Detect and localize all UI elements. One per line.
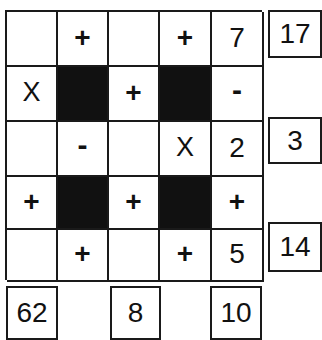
- grid-cell-r5c3[interactable]: [109, 230, 160, 282]
- grid-cell-r4c2-blocked: [58, 177, 109, 230]
- grid-cell-r1c2[interactable]: +: [58, 12, 109, 67]
- minus-icon: -: [78, 130, 88, 160]
- grid-cell-r3c5[interactable]: 2: [212, 122, 264, 177]
- grid-cell-r2c2-blocked: [58, 67, 109, 122]
- grid-cell-r4c5[interactable]: +: [212, 177, 264, 230]
- plus-icon: +: [74, 240, 90, 268]
- grid-cell-r3c2[interactable]: -: [58, 122, 109, 177]
- row-answer-value-3: 3: [287, 127, 303, 155]
- grid-cell-r5c5[interactable]: 5: [212, 230, 264, 282]
- grid-cell-r4c3[interactable]: +: [109, 177, 160, 230]
- grid-cell-r5c4[interactable]: +: [160, 230, 212, 282]
- grid-cell-r1c5[interactable]: 7: [212, 12, 264, 67]
- column-answer-value-3: 8: [128, 299, 144, 327]
- times-icon: X: [22, 79, 40, 106]
- grid-cell-r1c1[interactable]: [7, 12, 58, 67]
- row-answer-value-1: 17: [279, 20, 310, 48]
- column-answer-box-5[interactable]: 10: [210, 286, 262, 340]
- plus-icon: +: [177, 240, 193, 268]
- minus-icon: -: [232, 75, 242, 105]
- cell-number: 2: [229, 134, 245, 162]
- grid-cell-r5c2[interactable]: +: [58, 230, 109, 282]
- cell-number: 5: [229, 240, 245, 268]
- column-answer-box-1[interactable]: 62: [6, 286, 58, 340]
- plus-icon: +: [125, 188, 141, 216]
- plus-icon: +: [74, 24, 90, 52]
- grid-cell-r3c4[interactable]: X: [160, 122, 212, 177]
- plus-icon: +: [125, 79, 141, 107]
- column-answer-value-1: 62: [16, 299, 47, 327]
- grid-cell-r5c1[interactable]: [7, 230, 58, 282]
- grid-cell-r4c4-blocked: [160, 177, 212, 230]
- times-icon: X: [176, 134, 194, 161]
- grid-cell-r4c1[interactable]: +: [7, 177, 58, 230]
- grid-cell-r3c3[interactable]: [109, 122, 160, 177]
- grid-cell-r2c4-blocked: [160, 67, 212, 122]
- row-answer-value-5: 14: [279, 233, 310, 261]
- plus-icon: +: [229, 188, 245, 216]
- grid-cell-r2c3[interactable]: +: [109, 67, 160, 122]
- puzzle-grid: + + 7 X + - - X 2 + + + + + 5: [5, 10, 262, 280]
- column-answer-box-3[interactable]: 8: [110, 286, 161, 340]
- grid-cell-r2c5[interactable]: -: [212, 67, 264, 122]
- cell-number: 7: [229, 24, 245, 52]
- grid-cell-r1c4[interactable]: +: [160, 12, 212, 67]
- column-answer-value-5: 10: [220, 299, 251, 327]
- plus-icon: +: [23, 188, 39, 216]
- row-answer-box-3[interactable]: 3: [268, 117, 322, 164]
- plus-icon: +: [177, 24, 193, 52]
- grid-cell-r1c3[interactable]: [109, 12, 160, 67]
- row-answer-box-1[interactable]: 17: [268, 10, 322, 58]
- grid-cell-r2c1[interactable]: X: [7, 67, 58, 122]
- row-answer-box-5[interactable]: 14: [268, 222, 322, 272]
- grid-cell-r3c1[interactable]: [7, 122, 58, 177]
